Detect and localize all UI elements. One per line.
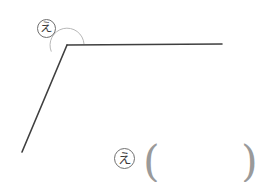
answer-row-label-e: え: [114, 148, 135, 169]
horizontal-ray: [67, 44, 222, 45]
geometry-figure-canvas: え え ( ): [0, 0, 274, 182]
angle-label-e: え: [37, 19, 56, 38]
answer-paren-close: ): [241, 140, 258, 182]
diagonal-ray: [22, 45, 67, 152]
answer-paren-open: (: [143, 140, 160, 182]
answer-blank-area[interactable]: [160, 150, 238, 174]
